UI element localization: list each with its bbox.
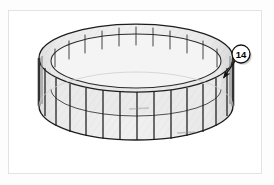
inner-surface-marking [177,132,195,133]
technical-drawing: 14 [9,11,263,175]
callout-balloon-label: 14 [236,49,247,60]
figure-description: Isometric technical illustration of a cy… [0,0,1,1]
cylinder-inner-cavity [51,34,221,114]
callout-label-text: 14 [0,0,1,1]
screenshot-page: 14 14 Isometric technical illustration o… [0,0,274,185]
inner-rim-marking [129,108,149,109]
callout-balloon-14[interactable]: 14 [232,45,253,66]
figure-frame: 14 [8,10,262,174]
